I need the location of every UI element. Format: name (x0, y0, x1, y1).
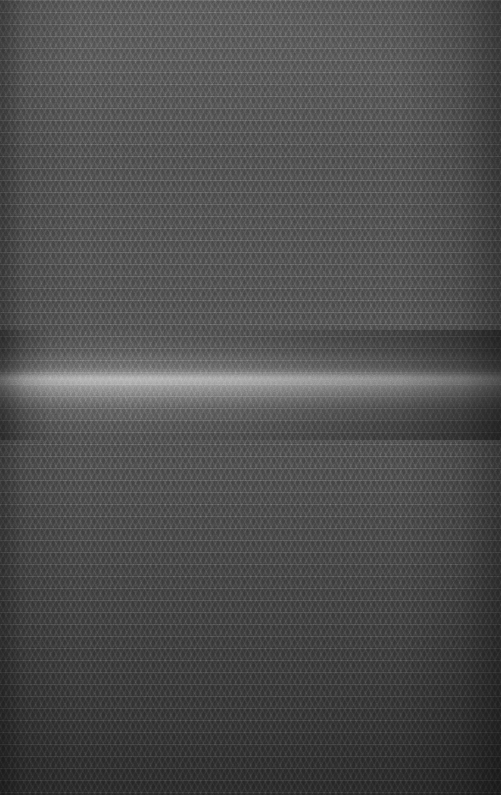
vignette-side-edges (0, 0, 501, 795)
upper-sheen-highlight (0, 0, 501, 150)
fabric-base-tone-layer (0, 0, 501, 795)
specular-highlight-band (0, 330, 501, 440)
vignette-bottom-shadow (0, 0, 501, 795)
weave-warp-threads-layer (0, 0, 501, 795)
fabric-texture-image (0, 0, 501, 795)
weave-diagonal-threads-left (0, 0, 501, 795)
vignette-radial-falloff (0, 0, 501, 795)
specular-highlight-core-line (0, 372, 501, 386)
sensor-grain-noise-layer (0, 0, 501, 795)
weave-cell-aperture-layer (0, 0, 501, 795)
specular-horizontal-falloff (0, 330, 501, 440)
weave-diagonal-threads-right (0, 0, 501, 795)
weave-weft-row-bands-layer (0, 0, 501, 795)
